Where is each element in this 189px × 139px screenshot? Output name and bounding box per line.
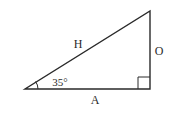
adjacent-label: A [91,93,100,107]
right-triangle-diagram: H O A 35° [0,0,189,139]
angle-arc [36,82,38,90]
triangle-outline [25,11,150,89]
angle-label: 35° [52,76,67,88]
opposite-label: O [155,44,164,58]
right-angle-marker [138,77,150,89]
hypotenuse-label: H [74,37,83,51]
